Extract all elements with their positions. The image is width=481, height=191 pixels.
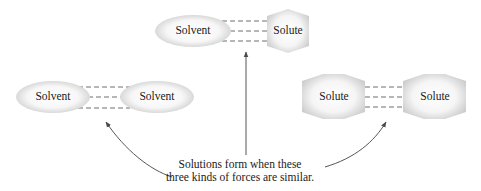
label-solute-right: Solute (420, 91, 449, 103)
label-solute-top: Solute (273, 25, 302, 37)
caption-line-2: three kinds of forces are similar. (130, 171, 350, 184)
diagram-canvas: Solvent Solute Solvent Solvent Solute So… (0, 0, 481, 191)
label-solvent-left: Solvent (35, 91, 70, 103)
label-solvent-right: Solvent (139, 91, 174, 103)
label-solute-left: Solute (319, 91, 348, 103)
label-solvent-top: Solvent (175, 25, 210, 37)
caption-line-1: Solutions form when these (130, 158, 350, 171)
interaction-dashes (365, 87, 403, 107)
caption: Solutions form when these three kinds of… (130, 158, 350, 184)
